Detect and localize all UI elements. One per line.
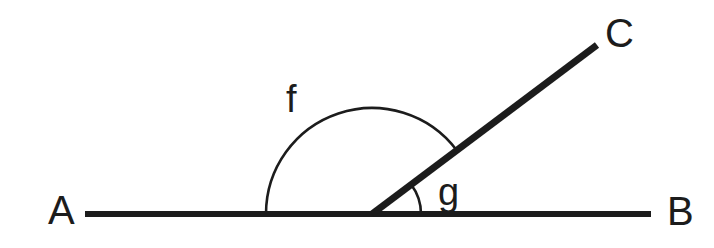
point-label-b: B — [667, 189, 694, 233]
angle-label-g: g — [438, 171, 459, 213]
point-label-c: C — [605, 11, 634, 55]
point-label-a: A — [48, 188, 75, 232]
geometry-diagram: A B C f g — [0, 0, 714, 248]
angle-diagram-canvas: A B C f g — [0, 0, 714, 248]
angle-label-f: f — [286, 78, 297, 120]
